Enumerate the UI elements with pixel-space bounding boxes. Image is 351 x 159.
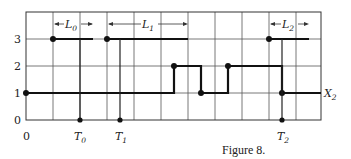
y-axis-labels: 3 2 1 0: [14, 33, 21, 127]
svg-text:L1: L1: [141, 18, 154, 33]
figure-caption: Figure 8.: [222, 143, 265, 157]
y-tick-0: 0: [14, 114, 21, 127]
interval-l1: [104, 36, 188, 123]
x2-label: X2: [323, 87, 337, 102]
interval-l2: [266, 36, 309, 123]
x2-path: [23, 63, 321, 96]
y-tick-2: 2: [14, 60, 21, 73]
l1-label: L1: [108, 18, 188, 33]
svg-text:L2: L2: [281, 18, 294, 33]
l2-label: L2: [270, 18, 309, 33]
svg-text:L0: L0: [64, 18, 77, 33]
t1-label: T1: [115, 130, 127, 145]
y-tick-3: 3: [14, 33, 21, 46]
y-tick-1: 1: [14, 87, 21, 100]
l0-label: L0: [54, 18, 93, 33]
interval-l0: [50, 36, 93, 123]
t2-label: T2: [277, 130, 289, 145]
t0-label: T0: [74, 130, 86, 145]
figure-diagram: 3 2 1 0 L0 L: [0, 0, 351, 159]
x-origin-label: 0: [23, 130, 30, 143]
